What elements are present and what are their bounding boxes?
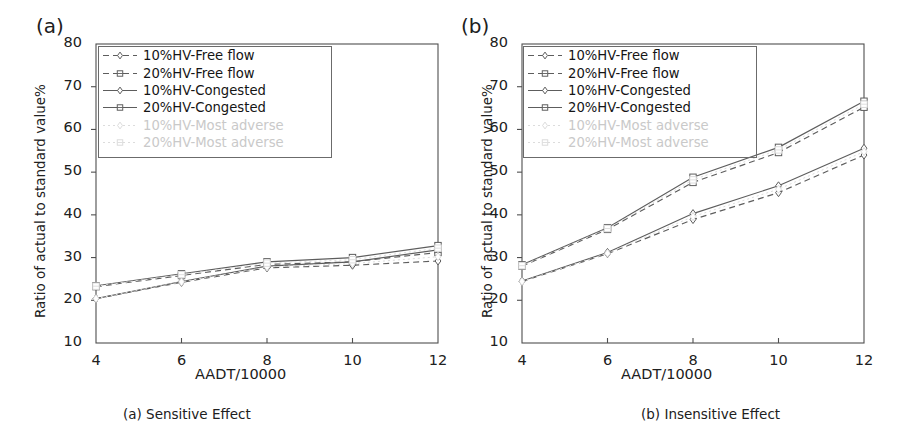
legend-item: 10%HV-Congested	[99, 82, 331, 99]
y-tick-label: 70	[48, 77, 82, 93]
legend-item: 10%HV-Most adverse	[524, 117, 756, 134]
legend-label: 10%HV-Most adverse	[568, 117, 709, 134]
legend-label: 20%HV-Most adverse	[568, 134, 709, 151]
panel-a-caption: (a) Sensitive Effect	[123, 406, 251, 422]
legend-square-marker-icon	[524, 99, 566, 116]
x-tick-label: 4	[81, 352, 111, 368]
y-tick-label: 60	[48, 119, 82, 135]
legend-item: 20%HV-Congested	[99, 99, 331, 116]
legend-item: 10%HV-Most adverse	[99, 117, 331, 134]
x-tick-label: 12	[423, 352, 453, 368]
legend-item: 20%HV-Congested	[524, 99, 756, 116]
legend-item: 20%HV-Free flow	[99, 64, 331, 81]
x-tick-label: 12	[849, 352, 879, 368]
y-tick-label: 30	[474, 248, 508, 264]
legend-label: 20%HV-Free flow	[568, 65, 680, 82]
legend-label: 20%HV-Congested	[143, 99, 266, 116]
legend-diamond-marker-icon	[99, 82, 141, 99]
legend-label: 20%HV-Congested	[568, 99, 691, 116]
panel-b: (b) Ratio of actual to standard value% 1…	[455, 0, 910, 446]
panel-a-legend: 10%HV-Free flow20%HV-Free flow10%HV-Cong…	[98, 46, 332, 158]
y-tick-label: 30	[48, 248, 82, 264]
y-tick-label: 60	[474, 119, 508, 135]
panel-b-legend: 10%HV-Free flow20%HV-Free flow10%HV-Cong…	[523, 46, 757, 158]
legend-label: 10%HV-Congested	[568, 82, 691, 99]
legend-item: 10%HV-Congested	[524, 82, 756, 99]
panel-a-x-axis-label: AADT/10000	[195, 366, 286, 382]
legend-label: 10%HV-Congested	[143, 82, 266, 99]
legend-diamond-marker-icon	[99, 47, 141, 64]
legend-item: 10%HV-Free flow	[524, 47, 756, 64]
legend-diamond-marker-icon	[524, 117, 566, 134]
legend-square-marker-icon	[524, 65, 566, 82]
x-tick-label: 10	[764, 352, 794, 368]
legend-label: 10%HV-Free flow	[143, 47, 255, 64]
y-tick-label: 70	[474, 77, 508, 93]
x-tick-label: 4	[507, 352, 537, 368]
legend-square-marker-icon	[99, 99, 141, 116]
legend-item: 20%HV-Most adverse	[99, 134, 331, 151]
x-tick-label: 6	[167, 352, 197, 368]
y-tick-label: 50	[474, 162, 508, 178]
legend-diamond-marker-icon	[524, 82, 566, 99]
legend-label: 20%HV-Most adverse	[143, 134, 284, 151]
y-tick-label: 40	[48, 205, 82, 221]
y-tick-label: 80	[474, 34, 508, 50]
legend-label: 10%HV-Most adverse	[143, 117, 284, 134]
x-tick-label: 6	[593, 352, 623, 368]
x-tick-label: 8	[252, 352, 282, 368]
y-tick-label: 10	[48, 333, 82, 349]
y-tick-label: 50	[48, 162, 82, 178]
legend-diamond-marker-icon	[99, 117, 141, 134]
legend-square-marker-icon	[99, 134, 141, 151]
y-tick-label: 40	[474, 205, 508, 221]
panel-b-caption: (b) Insensitive Effect	[641, 406, 780, 422]
legend-label: 20%HV-Free flow	[143, 65, 255, 82]
y-tick-label: 20	[48, 290, 82, 306]
y-tick-label: 20	[474, 290, 508, 306]
x-tick-label: 10	[338, 352, 368, 368]
y-tick-label: 10	[474, 333, 508, 349]
legend-item: 20%HV-Free flow	[524, 64, 756, 81]
figure-container: (a) Ratio of actual to standard value% 1…	[0, 0, 910, 446]
legend-label: 10%HV-Free flow	[568, 47, 680, 64]
panel-a: (a) Ratio of actual to standard value% 1…	[0, 0, 455, 446]
x-tick-label: 8	[678, 352, 708, 368]
y-tick-label: 80	[48, 34, 82, 50]
legend-item: 10%HV-Free flow	[99, 47, 331, 64]
legend-square-marker-icon	[524, 134, 566, 151]
legend-diamond-marker-icon	[524, 47, 566, 64]
legend-item: 20%HV-Most adverse	[524, 134, 756, 151]
panel-b-x-axis-label: AADT/10000	[621, 366, 712, 382]
legend-square-marker-icon	[99, 65, 141, 82]
